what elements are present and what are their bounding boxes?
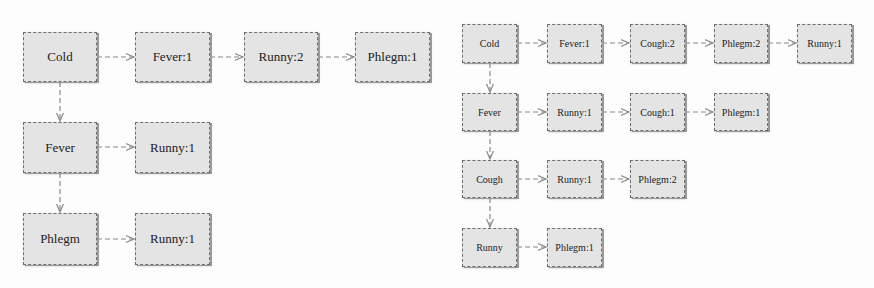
node-fever-count: Fever:1 [547,24,602,63]
node-fever-count: Fever:1 [135,32,210,82]
node-runny-count: Runny:1 [547,160,602,198]
node-phlegm: Phlegm [23,213,97,265]
node-runny-count: Runny:2 [244,32,318,82]
node-phlegm-count: Phlegm:1 [714,93,768,131]
node-phlegm-count: Phlegm:1 [355,32,430,82]
node-runny-count: Runny:1 [547,93,602,131]
node-cough: Cough [462,160,517,198]
node-runny-count: Runny:1 [135,122,210,173]
symptom-diagrams: Cold Fever:1 Runny:2 Phlegm:1 Fever Runn… [0,0,874,288]
node-cough-count: Cough:2 [630,24,685,63]
node-phlegm-count: Phlegm:2 [714,24,768,63]
node-fever: Fever [462,93,517,131]
node-phlegm-count: Phlegm:2 [630,160,685,198]
node-runny: Runny [462,228,517,267]
node-runny-count: Runny:1 [135,213,210,265]
node-runny-count: Runny:1 [797,24,852,63]
node-cough-count: Cough:1 [630,93,685,131]
node-cold: Cold [462,24,517,63]
node-phlegm-count: Phlegm:1 [547,228,602,267]
node-cold: Cold [23,32,97,82]
node-fever: Fever [23,122,97,173]
